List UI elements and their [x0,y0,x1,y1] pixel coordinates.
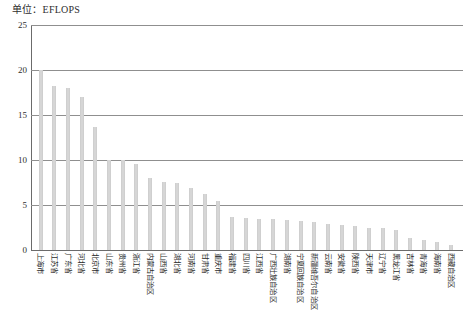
bar[interactable] [244,218,248,250]
y-tick-label-15: 15 [18,111,27,120]
bar[interactable] [162,182,166,250]
plot-area [31,25,463,250]
bar[interactable] [189,188,193,250]
x-axis-label: 四川省 [242,253,250,274]
bar[interactable] [312,222,316,250]
x-axis-label: 新疆维吾尔自治区 [310,253,318,310]
x-axis-label: 西藏自治区 [447,253,455,289]
bar[interactable] [381,228,385,250]
bar[interactable] [299,221,303,250]
bar[interactable] [367,228,371,251]
x-axis-label: 贵州省 [119,253,127,274]
y-tick-label-25: 25 [18,21,27,30]
bar[interactable] [39,70,43,250]
x-axis-label: 甘肃省 [201,253,209,274]
bar[interactable] [80,97,84,250]
bar[interactable] [394,230,398,250]
x-axis-label: 上海市 [37,253,45,274]
bar[interactable] [326,224,330,250]
bar[interactable] [148,178,152,250]
x-axis-label: 辽宁省 [379,253,387,274]
x-axis-label: 天津市 [365,253,373,274]
bar[interactable] [271,219,275,250]
x-axis-label: 海南省 [433,253,441,274]
x-axis-label: 广西壮族自治区 [269,253,277,303]
x-axis-label: 陕西省 [351,253,359,274]
bars-layer [31,25,463,250]
bar-chart: 单位：EFLOPS 0510152025 上海市江苏省广东省河北省北京市山东省贵… [0,0,468,330]
x-axis-label: 内蒙古自治区 [146,253,154,296]
bar[interactable] [257,219,261,251]
x-axis-label: 江西省 [256,253,264,274]
bar[interactable] [230,217,234,250]
x-axis-label: 吉林省 [406,253,414,274]
y-tick-label-5: 5 [23,201,28,210]
bar[interactable] [285,220,289,250]
x-axis-label: 宁夏回族自治区 [297,253,305,303]
bar[interactable] [422,240,426,250]
bar[interactable] [435,242,439,250]
bar[interactable] [353,226,357,250]
gridline-0 [31,250,463,251]
x-axis-label: 福建省 [228,253,236,274]
bar[interactable] [216,201,220,250]
x-axis-label: 北京市 [92,253,100,274]
bar[interactable] [121,160,125,250]
x-axis-label: 湖北省 [174,253,182,274]
x-axis-label: 浙江省 [133,253,141,274]
x-axis-label: 山东省 [105,253,113,274]
bar[interactable] [203,194,207,250]
y-axis-tick-labels: 0510152025 [0,0,27,330]
bar[interactable] [52,86,56,250]
bar[interactable] [107,160,111,250]
bar[interactable] [175,183,179,250]
bar[interactable] [408,238,412,250]
x-axis-label: 广东省 [64,253,72,274]
y-tick-label-0: 0 [23,246,28,255]
bar[interactable] [93,127,97,250]
y-tick-label-20: 20 [18,66,27,75]
x-axis-label: 黑龙江省 [392,253,400,281]
x-axis-label: 河南省 [187,253,195,274]
x-axis-label: 青海省 [420,253,428,274]
bar[interactable] [449,245,453,250]
x-axis-label: 湖南省 [283,253,291,274]
x-axis-label: 重庆市 [215,253,223,274]
x-axis-label: 河北省 [78,253,86,274]
bar[interactable] [66,88,70,250]
x-axis-category-labels: 上海市江苏省广东省河北省北京市山东省贵州省浙江省内蒙古自治区山西省湖北省河南省甘… [31,253,463,330]
bar[interactable] [340,225,344,250]
x-axis-label: 安徽省 [338,253,346,274]
y-tick-label-10: 10 [18,156,27,165]
x-axis-label: 江苏省 [51,253,59,274]
bar[interactable] [134,164,138,250]
x-axis-label: 山西省 [160,253,168,274]
x-axis-label: 云南省 [324,253,332,274]
